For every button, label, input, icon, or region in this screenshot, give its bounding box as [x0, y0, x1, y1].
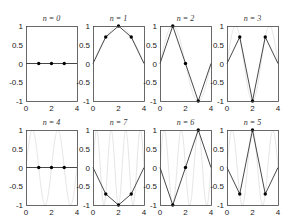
- x-tick-label: 4: [142, 208, 147, 217]
- y-tick-label: 1: [220, 126, 225, 135]
- y-tick-label: -1: [16, 201, 24, 210]
- subplot-title: n = 7: [110, 118, 128, 127]
- y-tick-label: -1: [16, 97, 24, 106]
- y-tick-label: 0: [153, 60, 158, 69]
- sample-marker: [238, 35, 241, 38]
- subplot-n-2: n = 210.50-0.5-1024: [143, 14, 214, 113]
- y-tick-label: -1: [150, 201, 158, 210]
- sample-marker: [171, 203, 174, 206]
- sample-marker: [50, 166, 53, 169]
- axes-box: [94, 27, 145, 102]
- subplot-title: n = 4: [43, 118, 60, 127]
- x-tick-label: 4: [209, 104, 214, 113]
- y-tick-label: -1: [217, 97, 225, 106]
- y-tick-label: 1: [19, 22, 24, 31]
- sampled-line: [227, 37, 278, 101]
- x-tick-label: 0: [24, 208, 29, 217]
- sample-marker: [197, 99, 200, 102]
- sample-marker: [104, 35, 107, 38]
- subplot-n-6: n = 610.50-0.5-1024: [143, 118, 214, 217]
- y-tick-label: 0.5: [213, 145, 225, 154]
- y-tick-label: 1: [153, 126, 158, 135]
- subplot-title: n = 3: [244, 14, 261, 23]
- x-tick-label: 4: [75, 104, 80, 113]
- sample-marker: [251, 128, 254, 131]
- x-tick-label: 0: [158, 208, 163, 217]
- sample-marker: [130, 192, 133, 195]
- subplot-n-1: n = 110.50-0.5-1024: [76, 14, 147, 113]
- y-tick-label: 0.5: [12, 145, 24, 154]
- sample-marker: [130, 35, 133, 38]
- sample-marker: [117, 24, 120, 27]
- x-tick-label: 2: [116, 104, 121, 113]
- y-tick-label: -0.5: [9, 78, 23, 87]
- continuous-curve: [227, 130, 278, 205]
- subplot-n-3: n = 310.50-0.5-1024: [210, 14, 281, 113]
- x-tick-label: 0: [225, 104, 230, 113]
- sample-marker: [184, 166, 187, 169]
- subplot-title: n = 1: [110, 14, 127, 23]
- x-tick-label: 2: [183, 104, 188, 113]
- sampled-line: [93, 26, 144, 64]
- x-tick-label: 4: [276, 104, 281, 113]
- y-tick-label: -0.5: [143, 182, 157, 191]
- axes-box: [228, 131, 279, 206]
- x-tick-label: 0: [158, 104, 163, 113]
- y-tick-label: -0.5: [76, 78, 90, 87]
- y-tick-label: 1: [86, 22, 91, 31]
- x-tick-label: 0: [91, 104, 96, 113]
- x-tick-label: 0: [225, 208, 230, 217]
- x-tick-label: 4: [276, 208, 281, 217]
- continuous-curve: [93, 26, 144, 64]
- y-tick-label: -0.5: [9, 182, 23, 191]
- y-tick-label: 0: [86, 164, 91, 173]
- y-tick-label: 0.5: [79, 41, 91, 50]
- sample-marker: [63, 62, 66, 65]
- x-tick-label: 4: [142, 104, 147, 113]
- y-tick-label: 0.5: [146, 41, 158, 50]
- x-tick-label: 2: [49, 208, 54, 217]
- subplot-n-0: n = 010.50-0.5-1024: [9, 14, 80, 113]
- sample-marker: [37, 62, 40, 65]
- sample-marker: [251, 99, 254, 102]
- figure: n = 010.50-0.5-1024n = 110.50-0.5-1024n …: [0, 0, 295, 224]
- y-tick-label: -0.5: [210, 78, 224, 87]
- y-tick-label: 0: [19, 164, 24, 173]
- subplot-title: n = 0: [43, 14, 60, 23]
- axes-box: [228, 27, 279, 102]
- y-tick-label: 0: [153, 164, 158, 173]
- x-tick-label: 0: [91, 208, 96, 217]
- y-tick-label: -0.5: [76, 182, 90, 191]
- subplot-n-4: n = 410.50-0.5-1024: [9, 118, 80, 217]
- y-tick-label: 1: [220, 22, 225, 31]
- x-tick-label: 2: [250, 104, 255, 113]
- sample-marker: [37, 166, 40, 169]
- subplot-title: n = 2: [177, 14, 194, 23]
- x-tick-label: 2: [183, 208, 188, 217]
- sample-marker: [63, 166, 66, 169]
- sample-marker: [104, 192, 107, 195]
- continuous-curve: [227, 26, 278, 101]
- subplot-n-5: n = 510.50-0.5-1024: [210, 118, 281, 217]
- continuous-curve: [93, 130, 144, 205]
- subplot-n-7: n = 710.50-0.5-1024: [76, 118, 147, 217]
- sample-marker: [197, 128, 200, 131]
- y-tick-label: -0.5: [143, 78, 157, 87]
- sample-marker: [264, 192, 267, 195]
- y-tick-label: 1: [153, 22, 158, 31]
- y-tick-label: 1: [19, 126, 24, 135]
- y-tick-label: 0: [220, 164, 225, 173]
- x-tick-label: 2: [250, 208, 255, 217]
- x-tick-label: 4: [209, 208, 214, 217]
- y-tick-label: 0.5: [79, 145, 91, 154]
- subplot-title: n = 5: [244, 118, 261, 127]
- y-tick-label: -1: [83, 97, 91, 106]
- y-tick-label: 1: [86, 126, 91, 135]
- sample-marker: [238, 192, 241, 195]
- sample-marker: [117, 203, 120, 206]
- y-tick-label: -1: [83, 201, 91, 210]
- x-tick-label: 4: [75, 208, 80, 217]
- x-tick-label: 2: [49, 104, 54, 113]
- y-tick-label: 0: [220, 60, 225, 69]
- x-tick-label: 2: [116, 208, 121, 217]
